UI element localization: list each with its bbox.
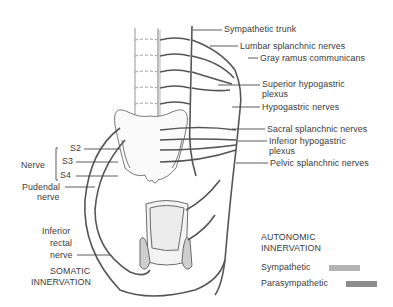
label-nerve: Nerve <box>21 160 45 171</box>
label-pudendal-nerve-line2: nerve <box>37 192 60 203</box>
label-pelvic-splanchnic-nerves: Pelvic splanchnic nerves <box>270 158 369 169</box>
label-inferior-rectal-nerve-line3: nerve <box>50 250 73 261</box>
sacrum <box>115 110 188 183</box>
legend-title-line1: AUTONOMIC <box>261 231 316 242</box>
legend-title-line2: INNERVATION <box>261 242 321 253</box>
legend-swatch-parasympathetic <box>346 281 377 287</box>
label-s4: S4 <box>60 170 71 181</box>
somatic-innervation-heading-line2: INNERVATION <box>31 276 91 287</box>
label-superior-hypogastric-plexus-line2: plexus <box>262 89 288 100</box>
label-lumbar-splanchnic-nerves: Lumbar splanchnic nerves <box>240 41 345 52</box>
legend-swatch-sympathetic <box>329 265 360 271</box>
label-inferior-rectal-nerve-line2: rectal <box>50 238 72 249</box>
label-sacral-splanchnic-nerves: Sacral splanchnic nerves <box>267 124 367 135</box>
vertebral-column <box>135 28 160 120</box>
label-inferior-rectal-nerve-line1: Inferior <box>42 226 70 237</box>
legend-label-parasympathetic: Parasympathetic <box>261 278 328 289</box>
label-sympathetic-trunk: Sympathetic trunk <box>224 24 296 35</box>
label-hypogastric-nerves: Hypogastric nerves <box>262 102 339 113</box>
label-gray-ramus-communicans: Gray ramus communicans <box>260 53 365 64</box>
somatic-innervation-heading-line1: SOMATIC <box>50 265 90 276</box>
label-inferior-hypogastric-plexus-line2: plexus <box>269 146 295 157</box>
label-s3: S3 <box>62 156 73 167</box>
rectum <box>140 201 192 270</box>
label-s2: S2 <box>70 143 81 154</box>
legend-label-sympathetic: Sympathetic <box>261 262 311 273</box>
